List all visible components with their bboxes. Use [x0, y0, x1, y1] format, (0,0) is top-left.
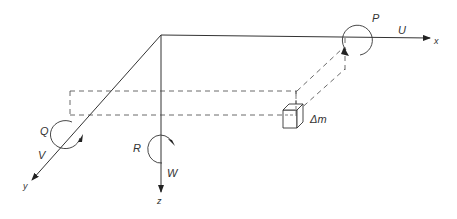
rotation-p-icon — [341, 25, 372, 56]
projection-lines — [70, 38, 345, 115]
y-axis-label: y — [23, 182, 28, 191]
rotation-q-icon — [50, 121, 83, 149]
z-axis-label: z — [157, 197, 162, 206]
v-velocity-label: V — [38, 150, 45, 161]
y-axis — [32, 35, 161, 180]
x-axis-label: x — [434, 37, 439, 46]
r-rotation-label: R — [133, 143, 141, 154]
p-rotation-label: P — [372, 13, 379, 24]
coordinate-diagram — [0, 0, 457, 219]
x-axis — [161, 35, 430, 38]
q-rotation-label: Q — [40, 126, 49, 137]
u-velocity-label: U — [398, 25, 406, 36]
w-velocity-label: W — [167, 168, 177, 179]
mass-element-cube — [283, 104, 303, 128]
mass-element-label: Δm — [310, 114, 327, 125]
